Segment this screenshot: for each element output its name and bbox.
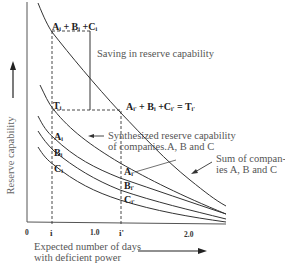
synth-arrow-head-icon: [88, 134, 94, 138]
label-saving: Saving in reserve capability: [97, 48, 214, 59]
tick-i: i: [50, 228, 53, 238]
x-axis: [27, 222, 226, 224]
label-synthesized-2: of companies.A, B and C: [108, 141, 214, 152]
tick-2: 2.0: [184, 230, 193, 239]
label-a-i: Ai: [54, 131, 63, 145]
label-abc-i: Ai + Bi +Ci: [52, 21, 97, 35]
label-sum-2: ies A, B and C: [216, 164, 277, 175]
y-axis-label: Reserve capability: [5, 117, 16, 195]
label-b-ip: Bi': [124, 180, 134, 194]
label-c-i: Ci: [54, 163, 63, 177]
y-arrow-head-icon: [10, 61, 16, 70]
label-abc-ip: Ai' + Bi +Ci' = Ti': [126, 101, 195, 115]
x-axis-label-1: Expected number of days: [34, 241, 141, 252]
label-a-ip: Ai': [124, 166, 135, 180]
sum-arrow-head-icon: [191, 169, 198, 174]
label-b-i: Bi: [54, 147, 62, 161]
x-axis-label-2: with deficient power: [34, 252, 121, 263]
synth-leader: [135, 160, 176, 172]
label-c-ip: Ci': [124, 194, 135, 208]
tick-0: 0: [25, 228, 29, 237]
sum-arrow-icon: [195, 162, 212, 172]
label-synthesized-1: Synthesized reserve capability: [108, 130, 236, 141]
label-sum-1: Sum of compan-: [216, 153, 285, 164]
label-t-i: Ti: [53, 100, 61, 114]
tick-ip: i': [119, 228, 124, 238]
tick-1: 1.0: [90, 228, 99, 237]
x-arrow-head-icon: [198, 248, 207, 254]
